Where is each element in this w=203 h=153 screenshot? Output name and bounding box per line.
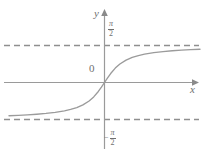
y-axis-label: y	[94, 8, 99, 19]
lower-asymptote-label: − π 2	[104, 129, 116, 147]
upper-asymptote-label: π 2	[108, 20, 114, 38]
two-denominator: 2	[108, 30, 114, 39]
y-axis-arrowhead	[101, 9, 108, 16]
pi-over-two-fraction: π 2	[108, 20, 114, 38]
arctan-graph-figure: y x 0 π 2 − π 2	[0, 0, 203, 153]
origin-label: 0	[89, 63, 95, 74]
neg-pi-over-two-fraction: π 2	[110, 129, 116, 147]
plot-canvas	[0, 0, 203, 153]
x-axis-label: x	[190, 84, 195, 95]
two-denominator: 2	[110, 139, 116, 148]
